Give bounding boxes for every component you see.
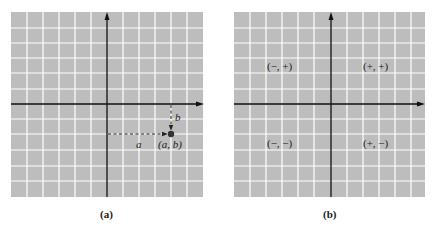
caption-a: (a) bbox=[100, 208, 113, 220]
quadrant-iii-label: (−, −) bbox=[267, 138, 292, 149]
panel-a: b a (a, b) (a) bbox=[0, 0, 218, 231]
coordinate-plane-b bbox=[218, 0, 435, 231]
quadrant-i-label: (+, +) bbox=[363, 61, 388, 72]
label-point-a-b: (a, b) bbox=[158, 139, 182, 150]
coordinate-plane-a bbox=[0, 0, 218, 231]
quadrant-ii-label: (−, +) bbox=[267, 61, 292, 72]
label-a: a bbox=[136, 139, 142, 150]
label-b: b bbox=[175, 112, 181, 123]
quadrant-iv-label: (+, −) bbox=[363, 138, 388, 149]
caption-b: (b) bbox=[323, 208, 336, 220]
point-a-b bbox=[168, 131, 174, 137]
panel-b: (−, +) (+, +) (−, −) (+, −) (b) bbox=[218, 0, 435, 231]
